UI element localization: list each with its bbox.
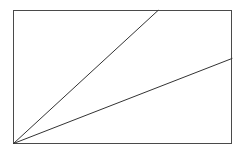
line-drawing-figure [0, 0, 245, 158]
figure-page [0, 0, 245, 158]
bounding-rectangle [14, 11, 232, 144]
